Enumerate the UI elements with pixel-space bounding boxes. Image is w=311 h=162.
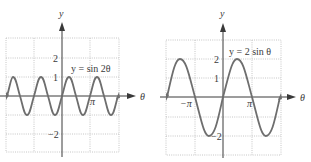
- right-x-arrow-icon: [287, 94, 296, 100]
- right-tick-neg-pi: −π: [180, 98, 193, 109]
- right-tick-2: 2: [214, 54, 219, 65]
- right-tick-neg2: −2: [211, 131, 222, 142]
- right-tick-1: 1: [214, 73, 219, 84]
- right-y-arrow-icon: [220, 23, 226, 32]
- right-graph: y θ 2 1 −2 π −π y = 2 sin θ: [0, 0, 311, 162]
- right-equation: y = 2 sin θ: [229, 46, 271, 57]
- right-y-label: y: [219, 8, 225, 19]
- right-x-label: θ: [300, 92, 305, 103]
